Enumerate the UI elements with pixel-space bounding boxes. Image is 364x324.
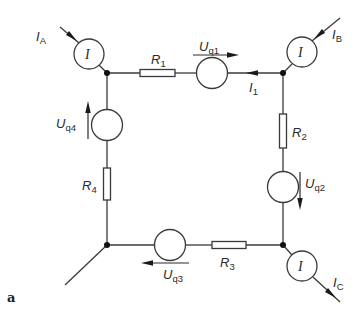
voltage-source-uq4: Uq4 [56, 101, 123, 141]
resistor-r2: R2 [280, 114, 307, 148]
branch-current-i1: I1 [246, 70, 258, 97]
current-arrow-icon [66, 31, 77, 41]
svg-text:I1: I1 [249, 80, 258, 97]
svg-text:IA: IA [36, 29, 47, 46]
arrow-left-icon [246, 70, 258, 75]
ammeter-c: I IC [287, 251, 344, 298]
figure-label: a [7, 290, 16, 305]
resistor-r3: R3 [212, 242, 246, 273]
ammeter-a: I IA [36, 29, 104, 69]
svg-text:Uq4: Uq4 [56, 116, 76, 133]
svg-text:Uq1: Uq1 [199, 39, 219, 56]
svg-text:R1: R1 [151, 52, 166, 69]
resistor-r1: R1 [140, 52, 175, 77]
svg-text:Uq3: Uq3 [163, 267, 183, 284]
svg-text:R4: R4 [82, 178, 97, 195]
ammeter-b: I IB [287, 27, 342, 67]
node-bottom-left [104, 242, 110, 248]
wire-node-bl-lead [65, 245, 107, 285]
svg-text:R3: R3 [220, 255, 235, 272]
node-top-left [104, 70, 110, 76]
voltage-source-uq2: Uq2 [268, 172, 325, 211]
node-bottom-right [280, 242, 286, 248]
current-arrow-icon [314, 29, 325, 39]
svg-text:IB: IB [332, 27, 342, 44]
resistor-r4: R4 [82, 168, 111, 200]
node-top-right [280, 70, 286, 76]
circuit-diagram: R1 R2 R3 R4 Uq1 Uq2 Uq3 Uq4 I [0, 0, 364, 324]
voltage-source-uq3: Uq3 [141, 230, 189, 285]
svg-text:Uq2: Uq2 [305, 176, 325, 193]
svg-text:R2: R2 [292, 125, 307, 142]
svg-text:IC: IC [333, 275, 344, 292]
voltage-source-uq1: Uq1 [193, 39, 239, 89]
